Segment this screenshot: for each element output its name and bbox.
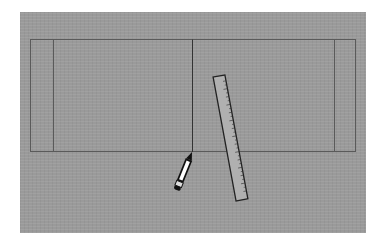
drawing-layer [0,0,384,242]
ruler-icon[interactable] [213,75,248,201]
pencil-icon[interactable] [173,151,195,192]
